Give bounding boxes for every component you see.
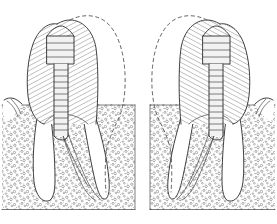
- diagram-canvas: [0, 0, 277, 224]
- dental-diagram-figure: Endodontically treated molars with intra…: [0, 0, 277, 224]
- left-panel: [2, 14, 135, 210]
- right-panel: [150, 14, 275, 210]
